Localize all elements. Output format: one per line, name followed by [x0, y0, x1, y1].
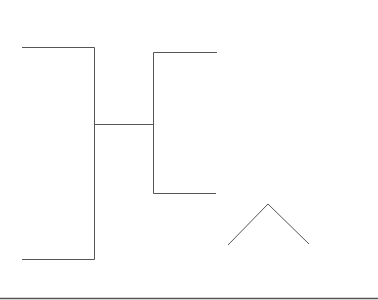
practices-bracket: [154, 53, 218, 194]
diagram-lines: [0, 0, 378, 300]
rules-bracket: [22, 48, 95, 260]
invisible-branch: [228, 204, 309, 245]
